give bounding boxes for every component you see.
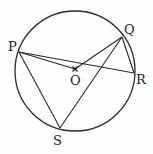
label-P: P <box>8 39 17 54</box>
segment-OQ <box>75 37 122 69</box>
segment-PS <box>19 52 60 128</box>
label-R: R <box>136 72 147 87</box>
circle-diagram: P Q R S O <box>0 0 153 154</box>
label-S: S <box>53 133 62 148</box>
label-O: O <box>70 73 81 88</box>
diagram-svg: P Q R S O <box>0 0 153 154</box>
circle <box>15 11 135 131</box>
label-Q: Q <box>124 22 135 37</box>
